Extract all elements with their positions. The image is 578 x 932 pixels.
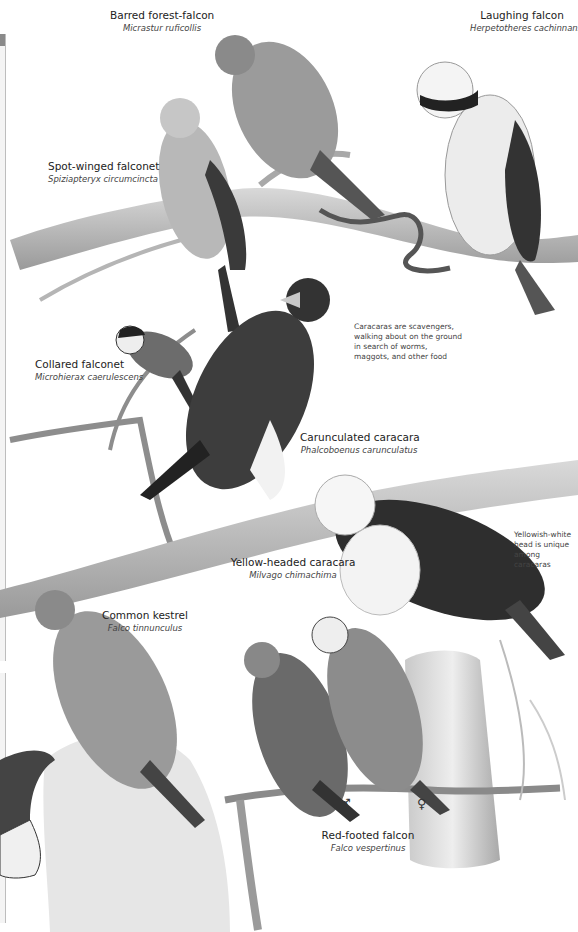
scientific-name: Phalcoboenus carunculatus [300,444,418,457]
female-symbol-icon: ♀ [417,796,427,811]
common-name: Collared falconet [35,358,145,371]
male-symbol-icon: ♂ [339,796,351,811]
common-name: Barred forest-falcon [110,9,214,22]
common-name: Yellow-headed caracara [228,556,358,569]
species-label-yellow-headed-caracara: Yellow-headed caracara Milvago chimachim… [228,556,358,582]
caracara-note: Caracaras are scavengers, walking about … [354,322,464,362]
species-label-barred-forest-falcon: Barred forest-falcon Micrastur ruficolli… [110,9,214,35]
species-label-laughing-falcon: Laughing falcon Herpetotheres cachinnans [470,9,574,35]
common-name: Red-footed falcon [318,829,418,842]
species-label-collared-falconet: Collared falconet Microhierax caerulesce… [35,358,145,384]
species-label-spot-winged-falconet: Spot-winged falconet Spiziapteryx circum… [48,160,158,186]
scientific-name: Falco tinnunculus [100,622,190,635]
common-name: Common kestrel [100,609,190,622]
species-label-red-footed-falcon: Red-footed falcon Falco vespertinus [318,829,418,855]
species-label-carunculated-caracara: Carunculated caracara Phalcoboenus carun… [300,431,418,457]
species-label-common-kestrel: Common kestrel Falco tinnunculus [100,609,190,635]
scientific-name: Milvago chimachima [228,569,358,582]
scientific-name: Spiziapteryx circumcincta [48,173,158,186]
illustrated-page: Barred forest-falcon Micrastur ruficolli… [0,0,578,932]
common-name: Spot-winged falconet [48,160,158,173]
common-name: Carunculated caracara [300,431,418,444]
scientific-name: Microhierax caerulescens [35,371,145,384]
yellowhead-note: Yellowish-white head is unique among car… [514,530,578,570]
scientific-name: Herpetotheres cachinnans [470,22,574,35]
scientific-name: Falco vespertinus [318,842,418,855]
scientific-name: Micrastur ruficollis [110,22,214,35]
bird-illustration [0,0,578,932]
common-name: Laughing falcon [470,9,574,22]
